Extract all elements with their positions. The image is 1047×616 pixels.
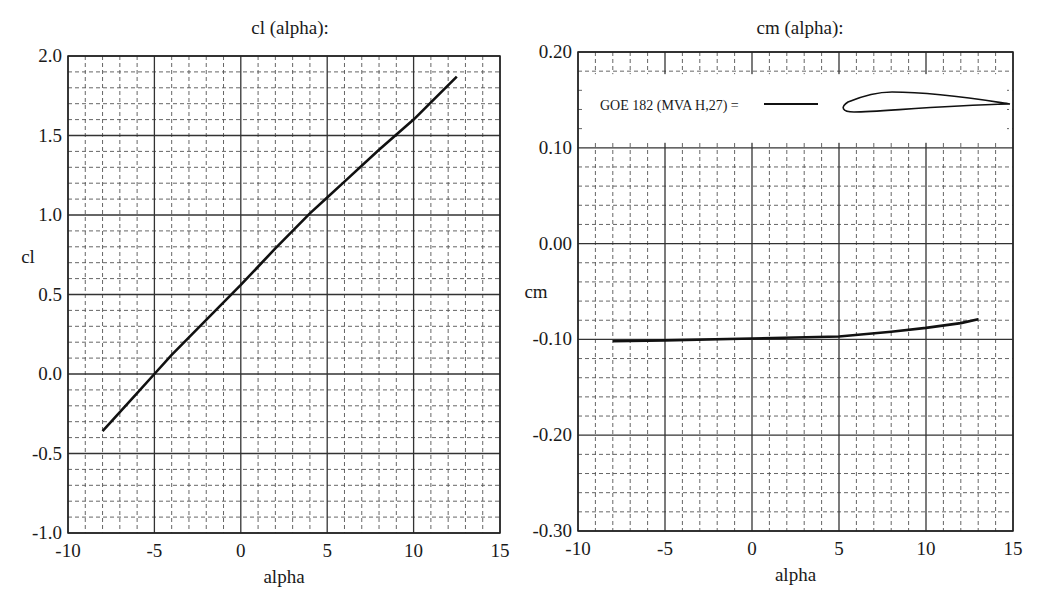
y-tick-label: 0.0	[38, 363, 62, 384]
y-axis-label: cm	[524, 281, 547, 302]
x-tick-label: 15	[491, 540, 510, 561]
x-tick-label: 15	[1004, 538, 1023, 559]
y-tick-label: -0.5	[32, 443, 62, 464]
x-tick-label: -5	[657, 538, 673, 559]
y-tick-label: -0.10	[532, 328, 572, 349]
chart-title: cl (alpha):	[251, 17, 329, 39]
chart-title: cm (alpha):	[756, 17, 843, 39]
x-tick-label: -10	[565, 538, 590, 559]
x-tick-label: -10	[55, 540, 80, 561]
y-tick-label: 0.00	[539, 233, 572, 254]
x-tick-label: 5	[834, 538, 844, 559]
x-tick-label: 0	[236, 540, 246, 561]
y-tick-label: 0.20	[539, 41, 572, 62]
x-axis-label: alpha	[263, 566, 305, 587]
legend-label: GOE 182 (MVA H,27) =	[600, 98, 739, 114]
legend: GOE 182 (MVA H,27) =	[584, 74, 1010, 143]
y-tick-label: 0.10	[539, 137, 572, 158]
x-tick-label: 5	[322, 540, 332, 561]
x-tick-label: 10	[404, 540, 423, 561]
y-axis-label: cl	[21, 246, 35, 267]
y-tick-label: 1.0	[38, 204, 62, 225]
x-tick-label: -5	[146, 540, 162, 561]
cl-alpha-plot: -10-5051015-1.0-0.50.00.51.01.52.0cl (al…	[0, 0, 520, 616]
cl-alpha-chart: -10-5051015-1.0-0.50.00.51.01.52.0cl (al…	[0, 0, 520, 616]
grid	[68, 56, 500, 533]
x-tick-label: 10	[917, 538, 936, 559]
y-tick-label: -0.30	[532, 520, 572, 541]
y-tick-label: 1.5	[38, 125, 62, 146]
y-tick-label: -0.20	[532, 424, 572, 445]
y-tick-label: 0.5	[38, 284, 62, 305]
y-tick-label: 2.0	[38, 45, 62, 66]
data-line-goe-182-mva-h-27-	[613, 319, 978, 341]
y-tick-label: -1.0	[32, 522, 62, 543]
cm-alpha-chart: GOE 182 (MVA H,27) =-10-5051015-0.30-0.2…	[520, 0, 1047, 616]
data-line-cl	[103, 77, 457, 432]
cm-alpha-plot: GOE 182 (MVA H,27) =-10-5051015-0.30-0.2…	[520, 0, 1047, 616]
x-tick-label: 0	[747, 538, 757, 559]
x-axis-label: alpha	[775, 564, 817, 585]
